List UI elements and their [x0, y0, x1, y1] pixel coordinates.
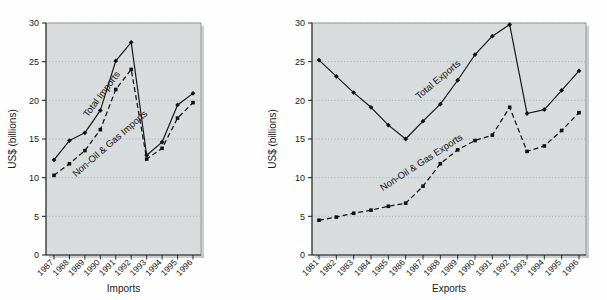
x-axis-title: Exports — [432, 283, 466, 294]
x-axis-title: Imports — [107, 283, 140, 294]
data-point-marker — [68, 162, 72, 166]
data-point-marker — [473, 139, 477, 143]
y-axis-tick-label: 10 — [295, 173, 305, 183]
x-axis-tick-label: 1996 — [174, 257, 195, 278]
x-axis-tick-label: 1996 — [560, 257, 581, 278]
data-point-marker — [352, 211, 356, 215]
data-point-marker — [176, 116, 180, 120]
x-axis-tick-label: 1987 — [404, 257, 425, 278]
y-axis-tick-label: 25 — [29, 57, 39, 67]
figure-page: 0510152025301987198819891990199119921993… — [0, 0, 607, 300]
data-point-marker — [543, 144, 547, 148]
data-point-marker — [456, 148, 460, 152]
x-axis-tick-label: 1982 — [317, 257, 338, 278]
data-point-marker — [369, 208, 373, 212]
x-axis-tick-label: 1992 — [491, 257, 512, 278]
y-axis-tick-label: 25 — [295, 57, 305, 67]
x-axis-tick-label: 1989 — [439, 257, 460, 278]
data-point-marker — [129, 68, 133, 72]
x-axis-tick-label: 1990 — [456, 257, 477, 278]
y-axis-tick-label: 15 — [295, 134, 305, 144]
data-point-marker — [145, 157, 149, 161]
data-point-marker — [317, 218, 321, 222]
data-point-marker — [160, 146, 164, 150]
y-axis-tick-label: 0 — [34, 250, 39, 260]
chart-exports: 0510152025301981198219831984198519861987… — [255, 0, 607, 300]
panel-shadow-right — [586, 26, 589, 258]
y-axis-tick-label: 15 — [29, 134, 39, 144]
data-point-marker — [404, 201, 408, 205]
data-point-marker — [114, 88, 118, 92]
y-axis-tick-label: 30 — [295, 18, 305, 28]
x-axis-tick-label: 1984 — [352, 257, 373, 278]
y-axis-title: US$ (billions) — [7, 109, 18, 168]
data-point-marker — [335, 215, 339, 219]
y-axis-tick-label: 10 — [29, 173, 39, 183]
x-axis-tick-label: 1995 — [543, 257, 564, 278]
data-point-marker — [525, 150, 529, 154]
exports-plot: 0510152025301981198219831984198519861987… — [255, 0, 607, 300]
y-axis-tick-label: 0 — [300, 250, 305, 260]
x-axis-tick-label: 1994 — [525, 257, 546, 278]
data-point-marker — [191, 101, 195, 105]
data-point-marker — [52, 174, 56, 178]
y-axis-tick-label: 5 — [34, 212, 39, 222]
x-axis-tick-label: 1986 — [387, 257, 408, 278]
x-axis-tick-label: 1983 — [335, 257, 356, 278]
y-axis-title: US$ (billions) — [267, 109, 278, 168]
data-point-marker — [508, 105, 512, 109]
y-axis-tick-label: 20 — [295, 96, 305, 106]
data-point-marker — [577, 111, 581, 115]
data-point-marker — [439, 162, 443, 166]
x-axis-tick-label: 1985 — [369, 257, 390, 278]
x-axis-tick-label: 1991 — [473, 257, 494, 278]
data-point-marker — [99, 128, 103, 132]
y-axis-tick-label: 20 — [29, 96, 39, 106]
data-point-marker — [387, 204, 391, 208]
data-point-marker — [421, 184, 425, 188]
x-axis-tick-label: 1988 — [421, 257, 442, 278]
y-axis-tick-label: 5 — [300, 212, 305, 222]
x-axis-tick-label: 1993 — [508, 257, 529, 278]
data-point-marker — [491, 133, 495, 137]
data-point-marker — [560, 129, 564, 133]
data-point-marker — [83, 149, 87, 153]
y-axis-tick-label: 30 — [29, 18, 39, 28]
